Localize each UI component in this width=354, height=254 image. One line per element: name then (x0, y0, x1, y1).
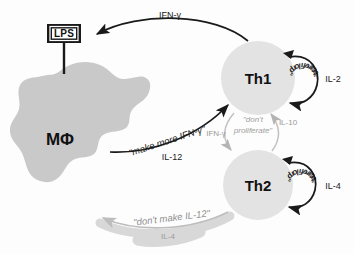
label-il-4-th2-loop: IL-4 (325, 181, 341, 191)
arrow-th1-to-macrophage (97, 18, 248, 41)
label-il-12: IL-12 (162, 152, 183, 162)
label-il-2: IL-2 (325, 74, 341, 84)
label-ifn-gamma-top: IFN-γ (159, 10, 181, 20)
label-ifn-gamma-middle: IFN-γ (206, 129, 226, 138)
immunology-diagram: MΦ Th1 Th2 IFN-γ IL-12 IFN-γ IL-10 IL-2 … (0, 0, 354, 254)
macrophage (10, 62, 150, 182)
lps-label: LPS (54, 28, 74, 39)
message-dont-proliferate-line2: proliferate" (233, 126, 274, 135)
macrophage-label: MΦ (46, 130, 74, 149)
label-il-10: IL-10 (279, 118, 298, 127)
arrow-th1-to-th2 (225, 113, 234, 150)
label-il-4-bottom: IL-4 (161, 232, 175, 241)
th1-label: Th1 (245, 70, 272, 87)
lps-stimulus: LPS (47, 24, 81, 43)
th2-label: Th2 (245, 177, 272, 194)
diagram-canvas: MΦ Th1 Th2 IFN-γ IL-12 IFN-γ IL-10 IL-2 … (0, 0, 354, 254)
message-dont-proliferate-line1: "don't (243, 115, 264, 124)
